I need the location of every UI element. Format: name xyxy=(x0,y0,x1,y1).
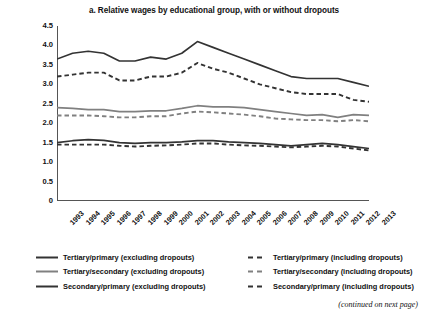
x-tick-label: 2004 xyxy=(239,209,257,227)
x-tick-label: 2003 xyxy=(224,209,242,227)
dashed-line-swatch-icon xyxy=(246,253,268,262)
y-tick-label: 3.0 xyxy=(27,79,53,88)
y-tick-label: 2.5 xyxy=(27,99,53,108)
x-axis-ticks: 1993199419951996199719981999200020012002… xyxy=(57,203,387,243)
legend-row: Secondary/primary (excluding dropouts)Se… xyxy=(36,279,428,294)
x-tick-label: 2011 xyxy=(348,209,366,227)
y-tick-label: 4.5 xyxy=(27,21,53,30)
axes xyxy=(57,26,369,201)
legend-row: Tertiary/secondary (excluding dropouts)T… xyxy=(36,265,428,280)
x-tick-label: 1994 xyxy=(83,209,101,227)
series-line xyxy=(57,143,369,150)
plot-area xyxy=(57,26,369,201)
legend-item: Tertiary/primary (excluding dropouts) xyxy=(36,253,246,262)
lines-svg xyxy=(57,26,369,201)
legend-row: Tertiary/primary (excluding dropouts)Ter… xyxy=(36,250,428,265)
series-line xyxy=(57,42,369,87)
x-tick-label: 2007 xyxy=(286,209,304,227)
legend-item-label: Tertiary/secondary (including dropouts) xyxy=(273,267,412,276)
x-tick-label: 2009 xyxy=(317,209,335,227)
y-axis-ticks: 4.54.03.53.02.52.01.51.00.50 xyxy=(23,26,53,201)
series-line xyxy=(57,63,369,102)
legend-item: Tertiary/primary (including dropouts) xyxy=(246,253,403,262)
x-tick-label: 1998 xyxy=(146,209,164,227)
legend-item: Tertiary/secondary (excluding dropouts) xyxy=(36,267,246,276)
x-tick-label: 2012 xyxy=(364,209,382,227)
legend-item-label: Tertiary/secondary (excluding dropouts) xyxy=(63,267,204,276)
legend-item: Tertiary/secondary (including dropouts) xyxy=(246,267,412,276)
solid-line-swatch-icon xyxy=(36,253,58,262)
x-tick-label: 2000 xyxy=(177,209,195,227)
x-tick-label: 1996 xyxy=(115,209,133,227)
x-tick-label: 2002 xyxy=(208,209,226,227)
x-tick-label: 1999 xyxy=(161,209,179,227)
solid-line-swatch-icon xyxy=(36,282,58,291)
legend: Tertiary/primary (excluding dropouts)Ter… xyxy=(36,250,428,294)
y-tick-label: 2.0 xyxy=(27,118,53,127)
y-tick-label: 1.5 xyxy=(27,138,53,147)
y-tick-label: 0 xyxy=(27,196,53,205)
x-tick-label: 2008 xyxy=(302,209,320,227)
legend-item-label: Secondary/primary (excluding dropouts) xyxy=(63,282,206,291)
y-tick-label: 4.0 xyxy=(27,40,53,49)
y-tick-label: 3.5 xyxy=(27,60,53,69)
x-tick-label: 2006 xyxy=(271,209,289,227)
y-tick-label: 0.5 xyxy=(27,177,53,186)
legend-item: Secondary/primary (excluding dropouts) xyxy=(36,282,246,291)
x-tick-label: 1993 xyxy=(68,209,86,227)
solid-line-swatch-icon xyxy=(36,267,58,276)
dashed-line-swatch-icon xyxy=(246,282,268,291)
x-tick-label: 1995 xyxy=(99,209,117,227)
x-tick-label: 1997 xyxy=(130,209,148,227)
x-tick-label: 2005 xyxy=(255,209,273,227)
legend-item-label: Secondary/primary (including dropouts) xyxy=(273,282,414,291)
figure: a. Relative wages by educational group, … xyxy=(0,0,428,322)
chart-title: a. Relative wages by educational group, … xyxy=(0,6,428,15)
x-tick-label: 2010 xyxy=(333,209,351,227)
x-tick-label: 2013 xyxy=(380,209,398,227)
legend-item: Secondary/primary (including dropouts) xyxy=(246,282,414,291)
legend-item-label: Tertiary/primary (excluding dropouts) xyxy=(63,253,194,262)
x-tick-label: 2001 xyxy=(193,209,211,227)
footnote: (continued on next page) xyxy=(338,300,418,309)
dashed-line-swatch-icon xyxy=(246,267,268,276)
legend-item-label: Tertiary/primary (including dropouts) xyxy=(273,253,403,262)
y-tick-label: 1.0 xyxy=(27,157,53,166)
series-line xyxy=(57,112,369,122)
